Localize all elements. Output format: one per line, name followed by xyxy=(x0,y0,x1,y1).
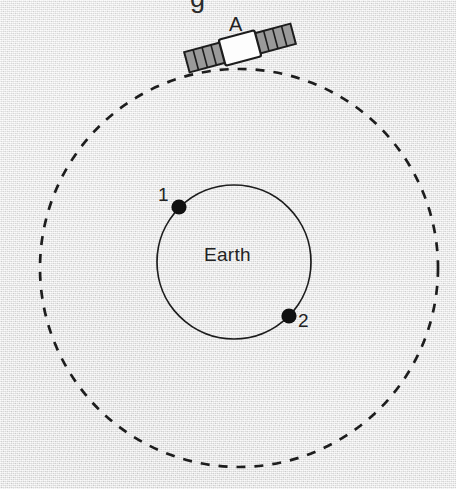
marker-dot-1 xyxy=(171,199,186,214)
clipped-title-glyph: g xyxy=(190,0,205,12)
earth-label: Earth xyxy=(204,245,251,264)
point-1-label: 1 xyxy=(158,185,169,204)
point-2-label: 2 xyxy=(298,311,309,330)
outer-orbit-path xyxy=(40,69,438,467)
marker-dot-2 xyxy=(281,308,296,323)
satellite-body xyxy=(219,30,262,66)
orbit-diagram-figure: g A 1 Earth 2 xyxy=(0,0,456,489)
satellite-a-label: A xyxy=(229,14,242,34)
